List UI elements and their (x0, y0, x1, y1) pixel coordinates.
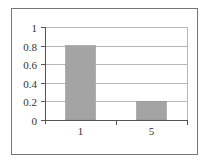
y-tick-label: 0.8 (23, 41, 37, 53)
x-tick-label: 5 (149, 125, 155, 137)
bar-5 (137, 101, 167, 120)
chart-frame (12, 9, 198, 155)
x-tick-label: 1 (78, 125, 84, 137)
y-tick-label: 0.2 (23, 96, 37, 108)
y-tick-label: 0.6 (23, 59, 37, 71)
y-tick-label: 0.4 (23, 78, 37, 90)
y-tick-label: 0 (32, 115, 38, 127)
bar-1 (66, 46, 96, 120)
y-tick-label: 1 (32, 22, 38, 34)
bar-chart: 00.20.40.60.81 15 (0, 0, 210, 164)
